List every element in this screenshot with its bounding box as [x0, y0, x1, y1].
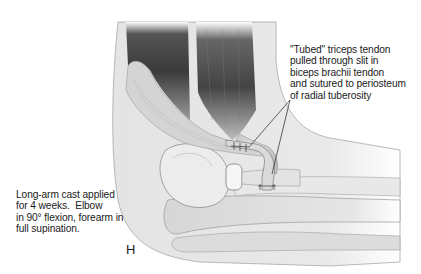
- tendon-transfer-annotation: "Tubed" triceps tendon pulled through sl…: [290, 44, 406, 101]
- panel-letter: H: [126, 242, 135, 257]
- cast-instruction-annotation: Long-arm cast applied for 4 weeks. Elbow…: [16, 189, 123, 235]
